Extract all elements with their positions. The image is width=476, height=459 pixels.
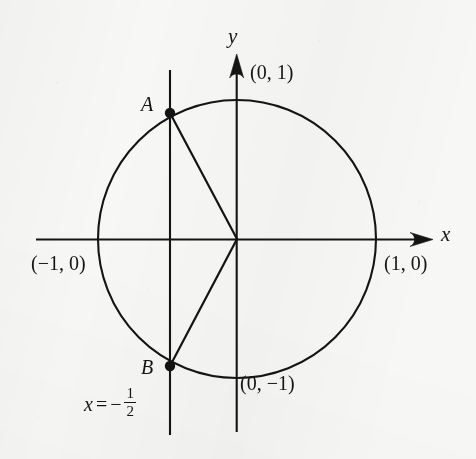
annotation-bottom-intercept: (0, −1): [240, 373, 295, 393]
annotation-top-intercept: (0, 1): [250, 62, 293, 82]
y-axis-label: y: [228, 26, 237, 47]
point-label-b: B: [141, 357, 153, 377]
line-equation-minus-sign: −: [110, 394, 121, 414]
point-label-a: A: [141, 94, 153, 114]
fraction-numerator: 1: [124, 386, 136, 401]
line-equation-label: x = − 1 2: [84, 387, 136, 421]
point-marker-a: [165, 108, 175, 118]
annotation-left-intercept: (−1, 0): [31, 253, 86, 273]
annotation-right-intercept: (1, 0): [384, 253, 427, 273]
line-equation-fraction: 1 2: [124, 386, 136, 420]
unit-circle-figure: y x (0, 1) (0, −1) (−1, 0) (1, 0) A B x …: [0, 0, 476, 459]
line-equation-variable: x: [84, 394, 93, 414]
line-equation-equals-sign: =: [96, 394, 107, 414]
segment-origin-to-point-b: [170, 239, 237, 366]
segment-origin-to-point-a: [170, 113, 237, 239]
x-axis-label: x: [441, 224, 450, 245]
point-marker-b: [165, 361, 175, 371]
fraction-denominator: 2: [124, 404, 136, 419]
diagram-vector-layer: [0, 0, 476, 459]
